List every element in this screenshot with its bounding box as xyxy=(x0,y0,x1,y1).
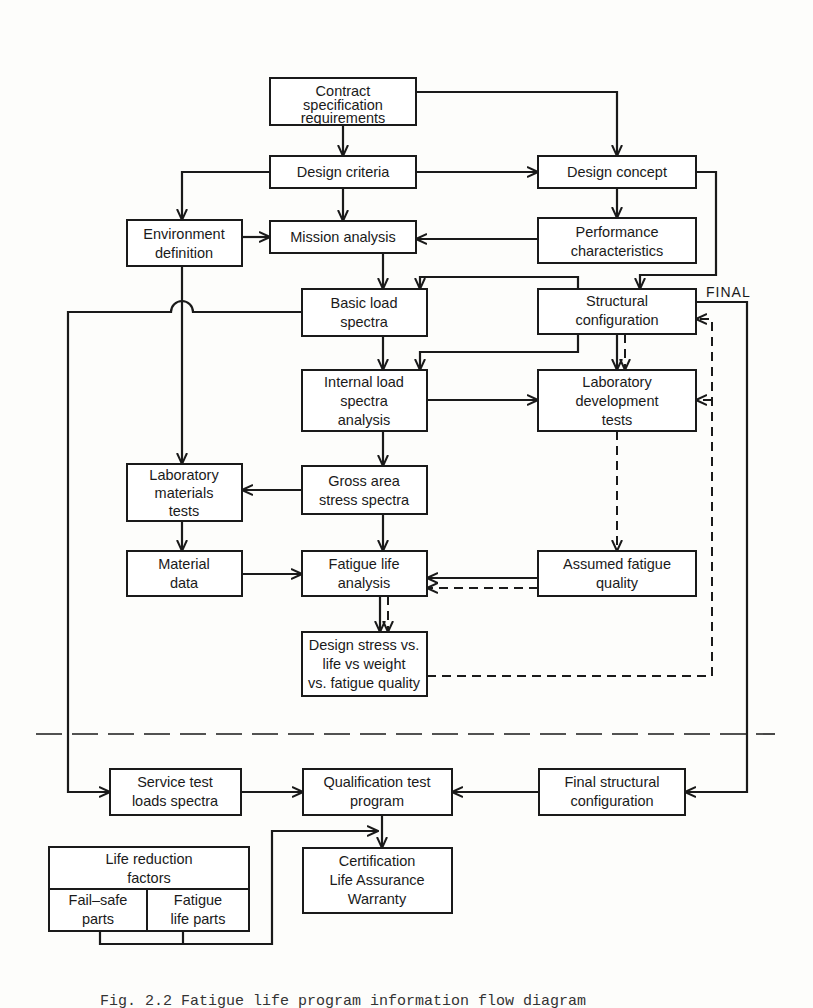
svg-text:requirements: requirements xyxy=(301,110,386,126)
svg-text:Design criteria: Design criteria xyxy=(297,164,391,180)
box-contract-specification: Contract specification requirements xyxy=(270,78,416,126)
box-design-criteria: Design criteria xyxy=(270,156,416,188)
box-certification-life-assurance-warranty: Certification Life Assurance Warranty xyxy=(303,848,452,913)
box-design-stress-tradeoff: Design stress vs. life vs weight vs. fat… xyxy=(302,632,427,696)
figure-caption: Fig. 2.2 Fatigue life program informatio… xyxy=(100,993,586,1008)
fail-safe-parts: Fail–safe xyxy=(69,892,128,908)
svg-text:Laboratory: Laboratory xyxy=(149,467,219,483)
svg-text:definition: definition xyxy=(155,245,213,261)
box-life-reduction-factors: Life reduction factors Fail–safe parts F… xyxy=(49,847,249,931)
svg-text:development: development xyxy=(575,393,658,409)
svg-text:life parts: life parts xyxy=(171,911,226,927)
svg-text:Performance: Performance xyxy=(575,224,658,240)
svg-text:Mission analysis: Mission analysis xyxy=(290,229,396,245)
svg-text:parts: parts xyxy=(82,911,114,927)
box-gross-area-stress-spectra: Gross area stress spectra xyxy=(302,466,427,514)
box-fatigue-life-analysis: Fatigue life analysis xyxy=(302,551,427,596)
svg-text:Basic load: Basic load xyxy=(331,295,398,311)
svg-text:Structural: Structural xyxy=(586,293,648,309)
box-final-structural-configuration: Final structural configuration xyxy=(539,769,685,815)
svg-text:stress spectra: stress spectra xyxy=(319,492,410,508)
svg-text:vs. fatigue quality: vs. fatigue quality xyxy=(308,675,421,691)
box-environment-definition: Environment definition xyxy=(127,220,242,266)
svg-text:tests: tests xyxy=(169,503,200,519)
box-material-data: Material data xyxy=(127,551,242,596)
box-structural-configuration: Structural configuration xyxy=(538,289,696,334)
fatigue-life-parts: Fatigue xyxy=(174,892,222,908)
svg-text:configuration: configuration xyxy=(575,312,658,328)
svg-text:data: data xyxy=(170,575,199,591)
svg-text:analysis: analysis xyxy=(338,575,390,591)
svg-text:configuration: configuration xyxy=(570,793,653,809)
svg-text:Environment: Environment xyxy=(143,226,224,242)
svg-text:Gross area: Gross area xyxy=(328,473,401,489)
svg-text:Service test: Service test xyxy=(137,774,213,790)
svg-text:Final structural: Final structural xyxy=(564,774,659,790)
box-laboratory-development-tests: Laboratory development tests xyxy=(538,370,696,431)
box-performance-characteristics: Performance characteristics xyxy=(538,218,696,263)
svg-text:quality: quality xyxy=(596,575,639,591)
svg-text:factors: factors xyxy=(127,870,171,886)
box-basic-load-spectra: Basic load spectra xyxy=(302,289,427,336)
svg-text:program: program xyxy=(350,793,404,809)
box-internal-load-spectra-analysis: Internal load spectra analysis xyxy=(302,370,427,431)
svg-text:Life Assurance: Life Assurance xyxy=(329,872,424,888)
svg-text:Design concept: Design concept xyxy=(567,164,667,180)
box-laboratory-materials-tests: Laboratory materials tests xyxy=(127,464,242,521)
box-qualification-test-program: Qualification test program xyxy=(303,769,452,815)
svg-text:Certification: Certification xyxy=(339,853,416,869)
svg-text:Life reduction: Life reduction xyxy=(105,851,192,867)
flow-diagram: FINAL Contract specification requirement… xyxy=(0,0,813,1008)
svg-text:Internal load: Internal load xyxy=(324,374,404,390)
svg-text:characteristics: characteristics xyxy=(571,243,664,259)
svg-text:Material: Material xyxy=(158,556,210,572)
svg-text:Warranty: Warranty xyxy=(348,891,407,907)
box-service-test-loads-spectra: Service test loads spectra xyxy=(110,769,241,815)
box-mission-analysis: Mission analysis xyxy=(270,221,416,253)
svg-text:life vs weight: life vs weight xyxy=(322,656,405,672)
svg-text:Fatigue life: Fatigue life xyxy=(329,556,400,572)
final-label: FINAL xyxy=(706,284,751,300)
svg-text:Design stress vs.: Design stress vs. xyxy=(309,637,419,653)
svg-text:spectra: spectra xyxy=(340,314,388,330)
svg-text:Qualification test: Qualification test xyxy=(323,774,430,790)
box-assumed-fatigue-quality: Assumed fatigue quality xyxy=(538,551,696,596)
svg-text:loads spectra: loads spectra xyxy=(132,793,219,809)
svg-text:spectra: spectra xyxy=(340,393,388,409)
svg-text:Assumed fatigue: Assumed fatigue xyxy=(563,556,671,572)
box-design-concept: Design concept xyxy=(538,156,696,188)
svg-text:analysis: analysis xyxy=(338,412,390,428)
svg-text:materials: materials xyxy=(155,485,214,501)
svg-text:tests: tests xyxy=(602,412,633,428)
svg-text:Laboratory: Laboratory xyxy=(582,374,652,390)
